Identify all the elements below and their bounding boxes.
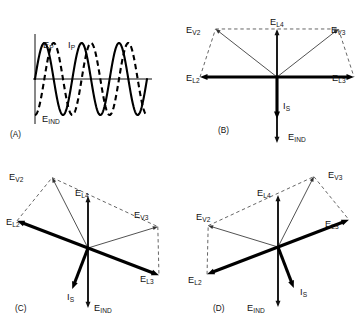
phasor-is-head [72,281,78,289]
label-ev3-d: EV3 [328,170,343,181]
construction-ev2-ev3 [208,177,314,226]
phasor-ev2-shaft [212,227,278,247]
panel-tag-b: (B) [218,126,229,135]
label-eind-a: EIND [42,114,60,125]
phasor-is-shaft [74,248,88,284]
label-eind-d: EIND [247,303,265,314]
label-ev2-d: EV2 [196,212,211,223]
label-is-d: IS [300,287,308,298]
label-ep: EP [43,40,54,51]
phasor-ev3-shaft [88,228,154,248]
figure-root: EP IP EIND (A) EL4 EV2 EV3 EL2 EL3 IS EI… [0,0,362,324]
label-eind-c: EIND [94,303,112,314]
label-el4-d: EL4 [257,188,271,199]
label-ev3-c: EV3 [134,210,149,221]
panel-tag-c: (C) [15,304,27,313]
panel-tag-d: (D) [213,304,225,313]
label-ip: IP [68,40,76,51]
construction-el2-ev2 [200,29,216,77]
phasor-el3-head [347,74,355,80]
phasor-el4-head [276,195,281,201]
label-el3-c: EL3 [140,274,154,285]
phasor-el4-head [275,29,280,35]
panel-a: EP IP EIND (A) [10,34,152,139]
diagram-canvas: EP IP EIND (A) EL4 EV2 EV3 EL2 EL3 IS EI… [0,0,362,324]
phasor-ev2-shaft [218,31,277,77]
phasor-ev3-head [152,226,157,230]
label-el2-b: EL2 [186,73,200,84]
panel-b: EL4 EV2 EV3 EL2 EL3 IS EIND (B) [186,17,354,143]
panel-d-vectors [207,177,349,307]
construction-ev3-el3 [314,177,349,220]
label-is-c: IS [67,292,75,303]
label-ev3-b: EV3 [331,25,346,36]
phasor-is-shaft [278,247,292,283]
phasor-eind-head [86,302,91,308]
construction-el2-ev2 [17,178,52,221]
phasor-ev3-shaft [277,31,336,77]
label-el4-c: EL4 [75,188,89,199]
label-el4-b: EL4 [270,17,284,28]
label-ev2-c: EV2 [9,172,24,183]
phasor-el2-shaft [212,247,278,272]
panel-tag-a: (A) [10,130,21,139]
panel-c: EL4 EV2 EV3 EL2 EL3 IS EIND (C) [6,172,159,314]
phasor-ev2-head [208,225,213,229]
construction-ev3-el3 [158,227,159,276]
phasor-eind-head [276,301,281,307]
label-el2-c: EL2 [6,217,20,228]
phasor-el3-head [341,220,349,226]
phasor-el3-shaft [88,248,154,273]
label-ev2-b: EV2 [186,25,201,36]
label-is-b: IS [283,101,291,112]
phasor-is-head [274,112,280,120]
phasor-el2-head [207,269,215,275]
label-el3-d: EL3 [325,219,339,230]
label-el2-d: EL2 [188,275,202,286]
label-el3-b: EL3 [332,73,346,84]
construction-el2-ev2 [207,226,208,275]
phasor-is-head [288,280,294,288]
label-eind-b: EIND [288,132,306,143]
phasor-eind-head [275,137,280,143]
phasor-el2-shaft [22,223,88,248]
panel-d: EL4 EV2 EV3 EL2 EL3 IS EIND (D) [188,170,349,314]
phasor-el3-head [151,270,159,276]
